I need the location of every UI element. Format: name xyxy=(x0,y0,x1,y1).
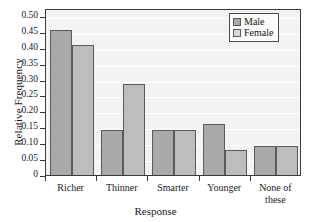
bar-thinner-female xyxy=(123,84,145,175)
legend: Male Female xyxy=(229,13,279,42)
y-tick-label: 0.25 xyxy=(21,89,38,99)
bar-group xyxy=(97,10,148,175)
y-tick: 0.05 xyxy=(0,160,45,161)
bar-none-of-these-male xyxy=(254,146,276,175)
legend-swatch-male-icon xyxy=(233,18,241,26)
bar-smarter-male xyxy=(152,130,174,175)
y-tick: 0.35 xyxy=(0,65,45,66)
y-tick-label: 0.20 xyxy=(21,105,38,115)
x-tick xyxy=(250,176,251,181)
y-tick-label: 0.15 xyxy=(21,121,38,131)
x-axis-label-line: None of xyxy=(238,182,311,194)
y-tick: 0.40 xyxy=(0,49,45,50)
y-tick: 0.45 xyxy=(0,33,45,34)
legend-swatch-female-icon xyxy=(233,29,241,37)
y-tick: 0 xyxy=(0,176,45,177)
y-tick-label: 0.10 xyxy=(21,137,38,147)
y-axis-ticks: 00.050.100.150.200.250.300.350.400.450.5… xyxy=(0,0,45,176)
bar-group xyxy=(46,10,97,175)
legend-item-female: Female xyxy=(233,27,273,38)
bar-none-of-these-female xyxy=(276,146,298,175)
y-tick-label: 0.40 xyxy=(21,42,38,52)
bar-younger-female xyxy=(225,150,247,175)
x-tick xyxy=(199,176,200,181)
bar-smarter-female xyxy=(174,130,196,175)
y-tick-label: 0.05 xyxy=(21,153,38,163)
bar-richer-male xyxy=(50,30,72,175)
x-tick xyxy=(96,176,97,181)
legend-item-male: Male xyxy=(233,16,273,27)
y-tick: 0.10 xyxy=(0,144,45,145)
bar-thinner-male xyxy=(101,130,123,175)
x-tick-origin xyxy=(45,176,46,181)
y-tick-label: 0 xyxy=(33,169,38,179)
y-tick-label: 0.30 xyxy=(21,74,38,84)
bar-chart: Relative Frequency 00.050.100.150.200.25… xyxy=(0,0,311,222)
y-tick-label: 0.50 xyxy=(21,10,38,20)
x-axis-title: Response xyxy=(0,205,311,217)
y-tick-label: 0.45 xyxy=(21,26,38,36)
y-tick: 0.30 xyxy=(0,81,45,82)
y-tick: 0.25 xyxy=(0,96,45,97)
y-tick-label: 0.35 xyxy=(21,58,38,68)
bar-richer-female xyxy=(72,45,94,175)
y-tick: 0.50 xyxy=(0,17,45,18)
x-axis-label: None ofthese xyxy=(238,182,311,205)
legend-label-male: Male xyxy=(244,16,265,27)
bar-group xyxy=(148,10,199,175)
bar-younger-male xyxy=(203,124,225,175)
x-axis-label-line: these xyxy=(238,194,311,206)
y-tick: 0.15 xyxy=(0,128,45,129)
legend-label-female: Female xyxy=(244,27,273,38)
y-tick: 0.20 xyxy=(0,112,45,113)
x-tick xyxy=(147,176,148,181)
